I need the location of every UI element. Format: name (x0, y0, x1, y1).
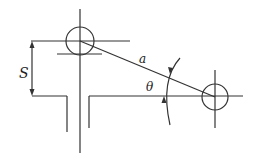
s-arrow-top-icon (30, 41, 35, 48)
mechanism-diagram: S a θ (0, 0, 257, 166)
label-theta: θ (146, 80, 154, 94)
theta-arrow-bottom-icon (162, 96, 167, 103)
s-arrow-bottom-icon (30, 89, 35, 96)
label-s: S (19, 65, 29, 81)
diagram-svg: S a θ (0, 0, 257, 166)
label-a: a (139, 52, 146, 66)
